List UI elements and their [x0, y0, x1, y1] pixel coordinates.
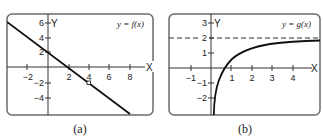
panel-b-frame	[169, 14, 320, 115]
panel-b-xtick-label: −1	[186, 73, 196, 83]
panel-b-ytick-label: 1	[202, 48, 207, 58]
panel-b-xtick-label: 3	[269, 73, 274, 83]
panel-a-caption: (a)	[73, 122, 86, 136]
panel-a-ytick-label: 6	[39, 18, 44, 28]
panel-a-ytick-label: −4	[34, 93, 44, 103]
panel-b-ytick-label: −1	[197, 78, 207, 88]
panel-b-ytick-label: 3	[202, 18, 207, 28]
panel-b-xtick-label: 4	[290, 73, 295, 83]
panel-b: −1 1 2 3 4 3 2 1 −1 −2 Y X y = g(x) (b)	[169, 14, 320, 136]
panel-b-ytick-label: −2	[197, 93, 207, 103]
panel-a-ytick-label: 2	[39, 47, 44, 57]
panel-a-xtick-label: 2	[66, 72, 71, 82]
panel-a-x-axis-label: X	[146, 62, 153, 73]
panel-b-y-axis-label: Y	[214, 18, 221, 29]
panel-a-xtick-label: 8	[127, 72, 132, 82]
panel-a-y-axis-label: Y	[51, 18, 58, 29]
panel-b-xtick-label: 2	[249, 73, 254, 83]
panel-b-ytick-label: 2	[202, 33, 207, 43]
panel-a-ytick-label: −2	[34, 78, 44, 88]
panel-a-function-label: y = f(x)	[116, 19, 144, 29]
panel-a-ytick-label: 4	[39, 33, 44, 43]
figure: −2 2 4 6 8 6 4 2 −2 −4 Y X X y = f(x) (a…	[0, 0, 323, 139]
panel-b-caption: (b)	[238, 122, 252, 136]
panel-a-xtick-label: 4	[86, 72, 91, 82]
panel-a-frame	[7, 14, 153, 115]
panel-b-x-axis-label: X	[311, 63, 318, 74]
panel-b-xtick-label: 1	[229, 73, 234, 83]
panel-a-xtick-label: −2	[23, 72, 33, 82]
panel-a: −2 2 4 6 8 6 4 2 −2 −4 Y X X y = f(x) (a…	[7, 14, 154, 136]
panel-b-function-label: y = g(x)	[281, 19, 311, 29]
panel-a-xtick-label: 6	[106, 72, 111, 82]
